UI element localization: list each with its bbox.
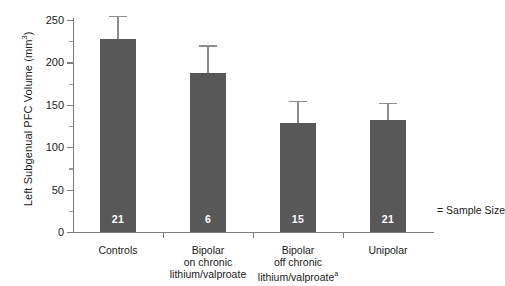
y-axis-tick-label: 150 bbox=[46, 99, 64, 110]
bar: 21 bbox=[370, 120, 406, 232]
x-axis-category-label-line: Unipolar bbox=[337, 244, 439, 256]
y-axis-line bbox=[73, 18, 74, 232]
y-axis-tick bbox=[67, 190, 73, 191]
error-bar-stem bbox=[117, 16, 118, 39]
bar: 15 bbox=[280, 123, 316, 232]
sample-size-legend: = Sample Size bbox=[437, 204, 505, 216]
x-axis-category-label-line: on chronic bbox=[157, 256, 259, 268]
error-bar-cap bbox=[379, 103, 397, 104]
error-bar-cap bbox=[289, 101, 307, 102]
x-axis-category-label-line: off chronic bbox=[247, 256, 349, 268]
y-axis-tick bbox=[67, 20, 73, 21]
y-axis-minor-tick bbox=[69, 84, 73, 85]
x-axis-category-label: Controls bbox=[67, 244, 169, 256]
y-axis-tick bbox=[67, 147, 73, 148]
y-axis-tick bbox=[67, 232, 73, 233]
y-axis-tick-label: 0 bbox=[58, 227, 64, 238]
bar: 6 bbox=[190, 73, 226, 232]
x-axis-category-label: Bipolaron chroniclithium/valproate bbox=[157, 244, 259, 281]
x-axis-category-label-line: Controls bbox=[67, 244, 169, 256]
y-axis-minor-tick bbox=[69, 126, 73, 127]
y-axis-minor-tick bbox=[69, 211, 73, 212]
x-axis-tick bbox=[343, 232, 344, 238]
y-axis-minor-tick bbox=[69, 41, 73, 42]
plot-area: 050100150200250 2161521 ControlsBipolaro… bbox=[73, 20, 433, 232]
x-axis-tick bbox=[163, 232, 164, 238]
bar-sample-size-label: 21 bbox=[370, 213, 406, 225]
x-axis-tick bbox=[253, 232, 254, 238]
bar-sample-size-label: 15 bbox=[280, 213, 316, 225]
x-axis-category-label-line: Bipolar bbox=[157, 244, 259, 256]
error-bar-stem bbox=[297, 101, 298, 124]
y-axis-title-text: Left Subgenual PFC Volume (mm bbox=[22, 39, 34, 206]
y-axis-minor-tick bbox=[69, 168, 73, 169]
x-axis-category-label: Unipolar bbox=[337, 244, 439, 256]
x-axis-category-footnote-mark: a bbox=[334, 270, 338, 277]
y-axis-tick-label: 200 bbox=[46, 57, 64, 68]
x-axis-category-label-line: lithium/valproate bbox=[157, 268, 259, 280]
y-axis-tick-label: 250 bbox=[46, 15, 64, 26]
bar-sample-size-label: 6 bbox=[190, 213, 226, 225]
error-bar-stem bbox=[387, 103, 388, 120]
x-axis-category-label-line: Bipolar bbox=[247, 244, 349, 256]
bar: 21 bbox=[100, 39, 136, 232]
x-axis-category-label: Bipolaroff chroniclithium/valproatea bbox=[247, 244, 349, 283]
bar-sample-size-label: 21 bbox=[100, 213, 136, 225]
error-bar-cap bbox=[109, 16, 127, 17]
x-axis-category-label-line: lithium/valproatea bbox=[247, 268, 349, 283]
y-axis-title: Left Subgenual PFC Volume (mm3) bbox=[20, 14, 34, 224]
y-axis-title-superscript: 3 bbox=[20, 35, 29, 39]
y-axis-title-suffix: ) bbox=[22, 31, 34, 35]
y-axis-tick bbox=[67, 105, 73, 106]
y-axis-tick-label: 50 bbox=[52, 184, 64, 195]
error-bar-cap bbox=[199, 45, 217, 46]
y-axis-tick-label: 100 bbox=[46, 142, 64, 153]
error-bar-stem bbox=[207, 45, 208, 73]
y-axis-tick bbox=[67, 62, 73, 63]
